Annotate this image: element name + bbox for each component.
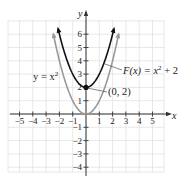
- y-tick-label: 4: [78, 56, 83, 66]
- base-curve-label: y = x2: [33, 70, 59, 82]
- vertex-point-marker: [83, 85, 88, 90]
- x-tick-label: 5: [150, 116, 155, 126]
- x-tick-label: 4: [137, 116, 142, 126]
- x-tick-label: 3: [124, 116, 129, 126]
- vertex-point-label: (0, 2): [108, 86, 131, 98]
- curve-arrowhead-icon: [52, 32, 57, 38]
- x-tick-label: −2: [55, 116, 65, 126]
- y-tick-label: −3: [72, 149, 82, 159]
- y-tick-label: 1: [78, 96, 83, 106]
- y-tick-label: 6: [78, 29, 83, 39]
- curve-arrowhead-icon: [115, 32, 120, 38]
- x-tick-label: −5: [15, 116, 25, 126]
- x-axis-label: x: [171, 110, 177, 121]
- y-tick-label: −1: [72, 122, 82, 132]
- y-axis-arrow-icon: [84, 10, 88, 16]
- shifted-curve-leader-line: [105, 64, 122, 70]
- shifted-curve-label: F(x) = x2 + 2: [122, 64, 178, 77]
- y-tick-label: −2: [72, 136, 82, 146]
- axes: [10, 10, 172, 176]
- y-axis-label: y: [77, 8, 83, 19]
- x-tick-label: −4: [28, 116, 38, 126]
- x-tick-label: −3: [41, 116, 51, 126]
- graph-plot: −5−4−3−2−112345−4−3−2−1123456 x y y = x2…: [0, 0, 195, 191]
- annotations: x y y = x2 F(x) = x2 + 2 (0, 2): [33, 8, 178, 121]
- y-tick-label: 3: [78, 69, 83, 79]
- y-tick-label: −4: [72, 162, 82, 172]
- y-tick-label: 5: [78, 43, 83, 53]
- x-tick-label: 2: [110, 116, 115, 126]
- x-tick-label: 1: [97, 116, 102, 126]
